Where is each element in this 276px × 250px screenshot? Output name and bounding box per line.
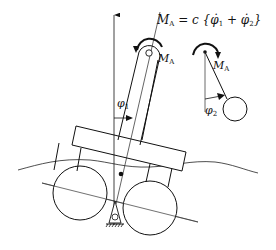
right-strut-inner [168,168,172,187]
right-wheel [123,181,177,235]
center-of-mass-dot [119,172,124,177]
ground-pivot-joint [112,214,118,220]
arm-pivot [146,50,152,56]
phi2-label: φ2 [205,105,217,118]
moment-label-pendulum: MA [213,60,229,73]
diagram-svg [0,0,276,250]
moment-label-arm-sub: A [169,58,174,66]
damping-moment-formula: MA = c {φ̇1 + φ̇2} [157,14,261,28]
formula-plus: + φ̇ [223,13,249,27]
phi2-label-sub: 2 [213,110,217,118]
moment-label-arm: MA [158,53,174,66]
phi1-label-text: φ [117,97,125,110]
moment-label-pendulum-text: M [213,59,224,72]
left-strut-outer [54,143,59,170]
moment-arrowhead-main [133,46,139,53]
pendulum-bob [223,97,247,121]
diagram-canvas: MA = c {φ̇1 + φ̇2} MA MA φ1 φ2 [0,0,276,250]
formula-rhs: = c {φ̇ [178,13,218,27]
moment-label-arm-text: M [158,52,169,65]
ground-profile [18,160,258,173]
moment-arrowhead-right [215,52,221,59]
formula-lhs: M [157,13,169,27]
phi1-label: φ1 [117,98,129,111]
left-wheel [53,166,107,220]
phi2-arrowhead [217,93,225,100]
phi1-arrowhead [126,115,133,121]
formula-close: } [254,13,262,27]
moment-arc-main [137,39,162,50]
formula-lhs-sub: A [169,20,174,28]
phi1-label-sub: 1 [125,103,129,111]
phi2-label-text: φ [205,104,213,117]
moment-label-pendulum-sub: A [224,65,229,73]
